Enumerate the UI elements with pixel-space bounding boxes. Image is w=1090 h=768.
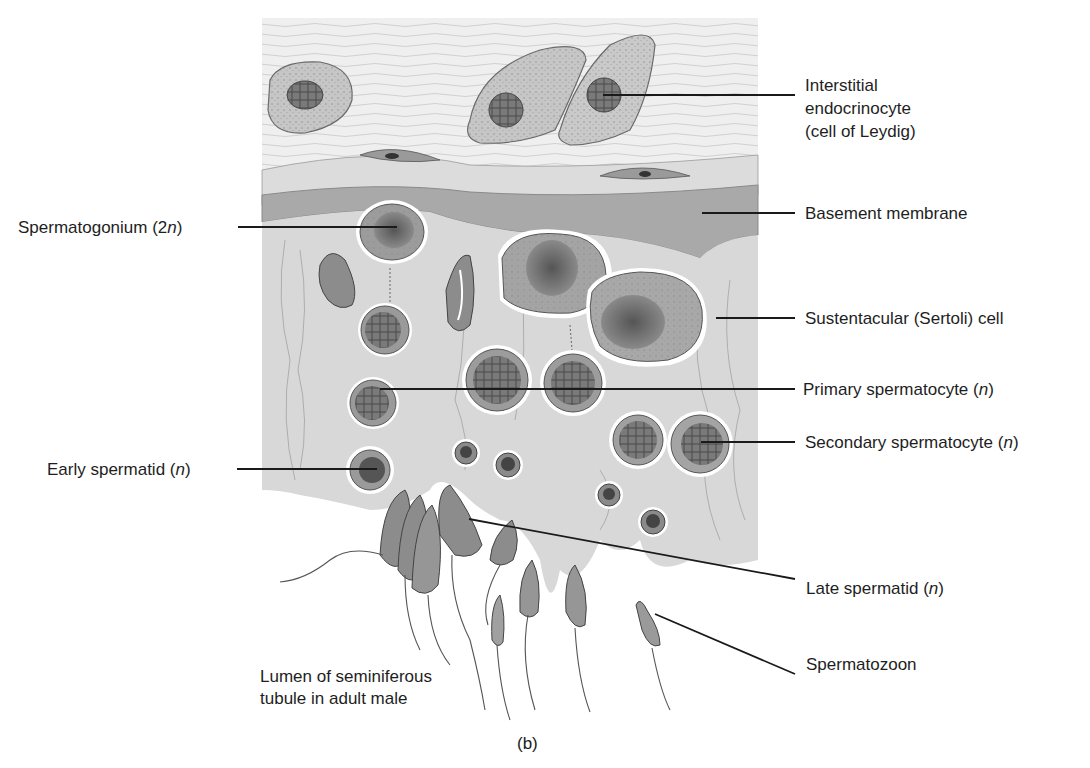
label-text: Early spermatid	[47, 460, 170, 479]
label-lumen: Lumen of seminiferous tubule in adult ma…	[260, 666, 432, 710]
label-early-spermatid: Early spermatid (n)	[47, 459, 191, 480]
seminiferous-tubule-figure: Interstitial endocrinocyte (cell of Leyd…	[0, 0, 1090, 768]
label-secondary-spermatocyte: Secondary spermatocyte (n)	[805, 432, 1019, 453]
ploidy: n	[929, 579, 938, 598]
ploidy: n	[167, 218, 176, 237]
ploidy-number: 2	[158, 218, 167, 237]
label-late-spermatid: Late spermatid (n)	[806, 578, 944, 599]
label-basement-membrane: Basement membrane	[805, 203, 968, 224]
label-text: Spermatozoon	[806, 655, 917, 674]
ploidy: n	[1003, 433, 1012, 452]
label-primary-spermatocyte: Primary spermatocyte (n)	[803, 379, 994, 400]
label-text: Basement membrane	[805, 204, 968, 223]
label-leydig-cell: Interstitial endocrinocyte (cell of Leyd…	[805, 74, 916, 143]
label-line: tubule in adult male	[260, 688, 432, 710]
label-spermatozoon: Spermatozoon	[806, 654, 917, 675]
label-text: Spermatogonium	[18, 218, 152, 237]
panel-caption: (b)	[517, 734, 538, 754]
label-line: endocrinocyte	[805, 97, 916, 120]
label-spermatogonium: Spermatogonium (2n)	[18, 217, 182, 238]
label-line: (cell of Leydig)	[805, 120, 916, 143]
label-text: Late spermatid	[806, 579, 923, 598]
ploidy: n	[176, 460, 185, 479]
label-line: Interstitial	[805, 74, 916, 97]
label-text: Primary spermatocyte	[803, 380, 973, 399]
label-line: Lumen of seminiferous	[260, 666, 432, 688]
label-sertoli-cell: Sustentacular (Sertoli) cell	[805, 308, 1003, 329]
label-text: Sustentacular (Sertoli) cell	[805, 309, 1003, 328]
ploidy: n	[979, 380, 988, 399]
label-text: Secondary spermatocyte	[805, 433, 998, 452]
